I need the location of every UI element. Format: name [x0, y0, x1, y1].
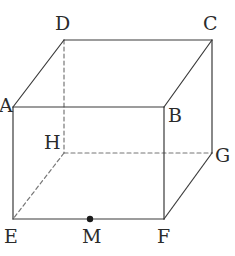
- edge-HE: [13, 153, 64, 219]
- vertex-label-B: B: [168, 106, 182, 125]
- edge-DA: [13, 40, 64, 107]
- vertex-label-F: F: [157, 227, 170, 246]
- cube-figure: ABCDEFGHM: [0, 0, 235, 256]
- vertex-label-M: M: [82, 227, 101, 246]
- vertex-label-H: H: [44, 133, 61, 152]
- edge-FG: [164, 153, 212, 219]
- edge-BC: [164, 40, 212, 107]
- vertex-label-C: C: [203, 14, 218, 33]
- vertex-label-A: A: [0, 96, 13, 115]
- solid-edge-group: [13, 40, 212, 219]
- marker-point-group: [87, 216, 93, 222]
- point-marker-M: [87, 216, 93, 222]
- vertex-label-D: D: [55, 14, 70, 33]
- vertex-label-G: G: [215, 146, 230, 165]
- vertex-label-E: E: [4, 227, 18, 246]
- cube-diagram-svg: [0, 0, 235, 256]
